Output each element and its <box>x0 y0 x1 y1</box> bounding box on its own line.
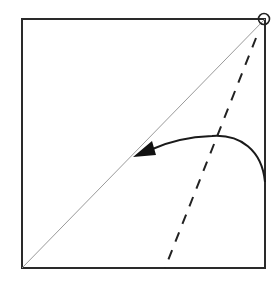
origami-diagram <box>0 0 277 287</box>
diagonal-crease <box>22 19 265 268</box>
valley-fold-line <box>165 38 256 268</box>
fold-arrow <box>150 136 265 182</box>
arrowhead-icon <box>133 141 156 157</box>
